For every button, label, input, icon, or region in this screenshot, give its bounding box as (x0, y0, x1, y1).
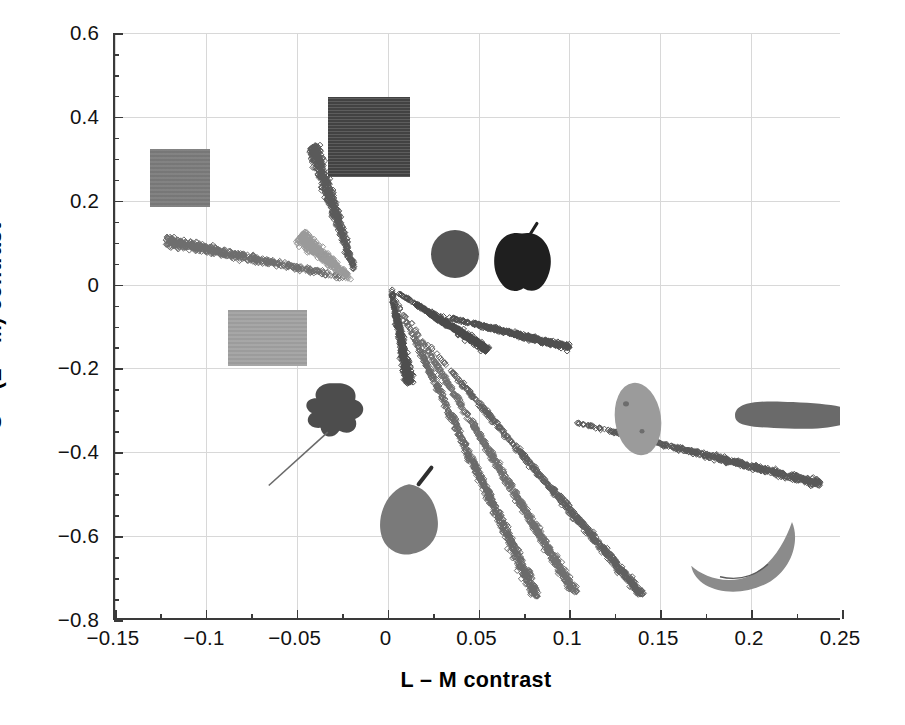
cluster-light-grey-fan (293, 229, 353, 282)
carrot-image-glyph (730, 398, 840, 432)
x-tick-label: 0.25 (820, 626, 861, 650)
x-tick (706, 614, 708, 619)
gridline-horizontal (115, 33, 840, 34)
y-tick (114, 54, 119, 56)
x-tick (206, 610, 208, 619)
y-axis-title: S – (L + M) contrast (0, 223, 7, 430)
cluster-orange-object (441, 314, 573, 355)
grey-square-patch (150, 149, 210, 207)
x-tick (115, 610, 117, 619)
x-tick (160, 614, 162, 619)
gridline-horizontal (115, 368, 840, 369)
y-tick (114, 473, 119, 475)
y-tick (114, 452, 123, 454)
y-tick (114, 243, 119, 245)
y-tick (114, 536, 123, 538)
x-tick-label: 0.05 (456, 626, 497, 650)
pear-image-glyph (369, 464, 449, 556)
cluster-leaf-object (389, 287, 416, 386)
plot-clip (115, 33, 840, 618)
x-tick-label: 0.2 (735, 626, 764, 650)
x-tick-label: 0.15 (638, 626, 679, 650)
y-tick (114, 264, 119, 266)
y-tick-label: 0 (0, 273, 99, 297)
y-tick-label: 0.4 (0, 105, 99, 129)
y-tick (114, 285, 123, 287)
x-tick (751, 610, 753, 619)
y-tick (114, 33, 123, 35)
y-tick (114, 201, 123, 203)
x-axis-title: L – M contrast (401, 668, 552, 693)
y-tick (114, 620, 123, 622)
x-tick-label: −0.1 (183, 626, 224, 650)
cluster-apple-object (396, 291, 492, 354)
x-tick (660, 610, 662, 619)
y-tick (114, 180, 119, 182)
y-tick (114, 159, 119, 161)
y-tick (114, 599, 119, 601)
y-tick-label: 0.6 (0, 21, 99, 45)
orange-image (430, 229, 480, 279)
leaf-image-glyph (299, 373, 371, 447)
x-tick (251, 614, 253, 619)
x-tick (297, 610, 299, 619)
x-tick (842, 610, 844, 619)
y-tick-label: −0.8 (0, 608, 99, 632)
orange-image-glyph (430, 229, 480, 279)
leaf-image (299, 373, 371, 447)
gridline-vertical (660, 33, 661, 618)
x-tick-label: −0.05 (268, 626, 321, 650)
x-tick (615, 614, 617, 619)
potato-image (613, 381, 663, 457)
y-tick (114, 138, 119, 140)
y-tick (114, 306, 119, 308)
banana-image (684, 519, 804, 597)
y-tick (114, 578, 119, 580)
gridline-horizontal (115, 285, 840, 286)
gridline-horizontal (115, 452, 840, 453)
potato-image-glyph (613, 381, 663, 457)
pear-image (369, 464, 449, 556)
y-tick (114, 368, 123, 370)
gridline-horizontal (115, 117, 840, 118)
apple-image-glyph (488, 222, 556, 294)
banana-image-glyph (684, 519, 804, 597)
plot-area (113, 33, 840, 620)
y-tick (114, 222, 119, 224)
gridline-vertical (569, 33, 570, 618)
y-tick (114, 117, 123, 119)
y-tick-label: −0.6 (0, 524, 99, 548)
y-tick-label: −0.2 (0, 356, 99, 380)
x-tick (797, 614, 799, 619)
y-tick (114, 557, 119, 559)
y-tick (114, 410, 119, 412)
x-tick (342, 614, 344, 619)
apple-image (488, 222, 556, 294)
y-tick (114, 494, 119, 496)
y-tick (114, 515, 119, 517)
y-tick (114, 347, 119, 349)
x-tick (524, 614, 526, 619)
gridline-vertical (115, 33, 116, 618)
x-tick (433, 614, 435, 619)
y-tick-label: −0.4 (0, 440, 99, 464)
y-tick (114, 389, 119, 391)
gridline-vertical (479, 33, 480, 618)
dark-texture-patch (328, 97, 410, 177)
x-tick (479, 610, 481, 619)
x-tick-label: 0.1 (553, 626, 582, 650)
figure-root: −0.15−0.1−0.0500.050.10.150.20.250.60.40… (0, 0, 905, 725)
y-tick-label: 0.2 (0, 189, 99, 213)
x-tick (388, 610, 390, 619)
gridline-horizontal (115, 201, 840, 202)
y-tick (114, 327, 119, 329)
y-tick (114, 431, 119, 433)
x-tick (569, 610, 571, 619)
x-tick-label: 0 (380, 626, 392, 650)
y-tick (114, 75, 119, 77)
carrot-image (730, 398, 840, 432)
cluster-grey-patch-object (163, 234, 347, 281)
gridline-vertical (206, 33, 207, 618)
y-tick (114, 96, 119, 98)
light-grey-patch (228, 310, 307, 366)
